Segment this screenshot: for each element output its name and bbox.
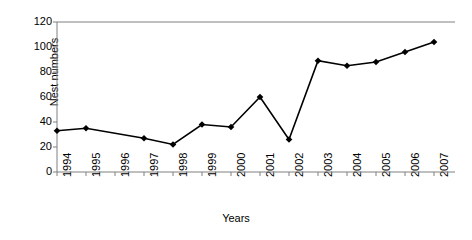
y-axis-ticks — [53, 22, 57, 172]
data-point-marker — [141, 135, 148, 142]
data-point-marker — [315, 57, 322, 64]
line-chart: Nest numbers Years 020406080100120 19941… — [0, 0, 472, 240]
plot-area — [0, 0, 472, 240]
data-point-marker — [402, 49, 409, 56]
data-point-marker — [54, 127, 61, 134]
data-point-marker — [431, 39, 438, 46]
x-axis-ticks — [57, 172, 434, 176]
axis-lines — [57, 22, 455, 172]
data-series-line — [57, 42, 434, 145]
data-point-markers — [54, 39, 438, 148]
data-point-marker — [344, 62, 351, 69]
data-point-marker — [83, 125, 90, 132]
data-point-marker — [373, 59, 380, 66]
